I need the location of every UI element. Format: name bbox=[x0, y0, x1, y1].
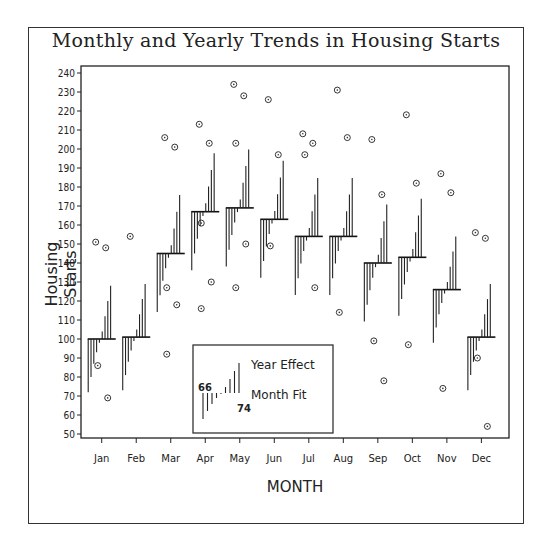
outlier-center bbox=[406, 114, 408, 116]
outlier-center bbox=[475, 232, 477, 234]
outlier-center bbox=[371, 139, 373, 141]
x-tick-label: Jun bbox=[265, 453, 282, 464]
outlier-center bbox=[166, 287, 168, 289]
outlier-center bbox=[233, 84, 235, 86]
x-tick-label: Nov bbox=[437, 453, 457, 464]
outlier-center bbox=[312, 143, 314, 145]
y-tick-label: 220 bbox=[58, 106, 75, 117]
y-tick-label: 70 bbox=[64, 391, 76, 402]
y-tick-label: 180 bbox=[58, 182, 75, 193]
x-tick-label: Mar bbox=[161, 453, 181, 464]
x-tick-label: Apr bbox=[197, 453, 215, 464]
outlier-center bbox=[235, 287, 237, 289]
y-tick-label: 90 bbox=[64, 353, 76, 364]
x-tick-label: Jan bbox=[93, 453, 109, 464]
outlier-center bbox=[381, 194, 383, 196]
outlier-center bbox=[243, 95, 245, 97]
outlier-center bbox=[129, 236, 131, 238]
outlier-center bbox=[208, 143, 210, 145]
outlier-center bbox=[314, 287, 316, 289]
outlier-center bbox=[174, 146, 176, 148]
outlier-center bbox=[200, 308, 202, 310]
x-tick-label: Feb bbox=[127, 453, 145, 464]
y-tick-label: 210 bbox=[58, 125, 75, 136]
x-tick-label: Dec bbox=[472, 453, 491, 464]
outlier-center bbox=[302, 133, 304, 135]
y-tick-label: 60 bbox=[64, 410, 76, 421]
y-tick-label: 230 bbox=[58, 87, 75, 98]
x-tick-label: May bbox=[229, 453, 250, 464]
outlier-center bbox=[200, 222, 202, 224]
y-tick-label: 170 bbox=[58, 201, 75, 212]
outlier-center bbox=[166, 353, 168, 355]
outlier-center bbox=[339, 312, 341, 314]
y-tick-label: 120 bbox=[58, 296, 75, 307]
outlier-center bbox=[164, 137, 166, 139]
outlier-center bbox=[373, 340, 375, 342]
outlier-center bbox=[176, 304, 178, 306]
x-tick-label: Oct bbox=[404, 453, 421, 464]
y-tick-label: 110 bbox=[58, 315, 75, 326]
outlier-center bbox=[442, 388, 444, 390]
outlier-center bbox=[477, 357, 479, 359]
y-tick-label: 150 bbox=[58, 239, 75, 250]
outlier-center bbox=[198, 124, 200, 126]
outlier-center bbox=[487, 426, 489, 428]
outlier-center bbox=[277, 154, 279, 156]
outlier-center bbox=[269, 245, 271, 247]
outlier-center bbox=[245, 243, 247, 245]
outlier-center bbox=[210, 281, 212, 283]
outlier-center bbox=[97, 365, 99, 367]
y-tick-label: 190 bbox=[58, 163, 75, 174]
plot-area: 5060708090100110120130140150160170180190… bbox=[0, 0, 549, 554]
outlier-center bbox=[440, 173, 442, 175]
x-tick-label: Jul bbox=[302, 453, 315, 464]
y-tick-label: 160 bbox=[58, 220, 75, 231]
x-tick-label: Sep bbox=[368, 453, 387, 464]
y-tick-label: 100 bbox=[58, 334, 75, 345]
outlier-center bbox=[95, 241, 97, 243]
legend-last-year: 74 bbox=[237, 403, 251, 414]
y-tick-label: 140 bbox=[58, 258, 75, 269]
outlier-center bbox=[235, 143, 237, 145]
outlier-center bbox=[485, 238, 487, 240]
legend-year-effect-label: Year Effect bbox=[250, 358, 315, 372]
legend-month-fit-label: Month Fit bbox=[251, 388, 307, 402]
y-tick-label: 200 bbox=[58, 144, 75, 155]
outlier-center bbox=[304, 154, 306, 156]
y-tick-label: 130 bbox=[58, 277, 75, 288]
outlier-center bbox=[105, 247, 107, 249]
outlier-center bbox=[416, 182, 418, 184]
outlier-center bbox=[107, 397, 109, 399]
x-tick-label: Aug bbox=[334, 453, 354, 464]
outlier-center bbox=[337, 89, 339, 91]
outlier-center bbox=[347, 137, 349, 139]
y-tick-label: 50 bbox=[64, 429, 76, 440]
outlier-center bbox=[383, 380, 385, 382]
y-tick-label: 240 bbox=[58, 68, 75, 79]
outlier-center bbox=[267, 99, 269, 101]
outlier-center bbox=[408, 344, 410, 346]
legend-first-year: 66 bbox=[198, 382, 212, 393]
y-tick-label: 80 bbox=[64, 372, 76, 383]
outlier-center bbox=[450, 192, 452, 194]
